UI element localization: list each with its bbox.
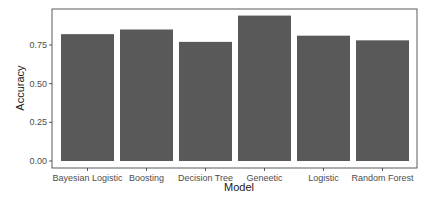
y-tick-label: 0.75 xyxy=(29,40,47,50)
bar-logistic xyxy=(297,36,350,161)
x-tick-label: Bayesian Logistic xyxy=(52,173,123,183)
y-axis-title: Accuracy xyxy=(14,65,26,111)
x-axis-title: Model xyxy=(224,181,254,193)
x-tick-label: Random Forest xyxy=(351,173,414,183)
bar-decision-tree xyxy=(179,42,232,161)
bar-random-forest xyxy=(356,40,409,161)
y-tick-label: 0.50 xyxy=(29,79,47,89)
y-tick-label: 0.25 xyxy=(29,117,47,127)
x-tick-label: Boosting xyxy=(129,173,164,183)
bar-chart: 0.000.250.500.75 Bayesian LogisticBoosti… xyxy=(0,0,432,208)
y-axis: 0.000.250.500.75 xyxy=(29,40,52,166)
bar-geneetic xyxy=(238,16,291,161)
x-tick-label: Logistic xyxy=(308,173,339,183)
y-tick-label: 0.00 xyxy=(29,156,47,166)
bar-boosting xyxy=(120,30,173,161)
bar-bayesian-logistic xyxy=(61,34,114,161)
